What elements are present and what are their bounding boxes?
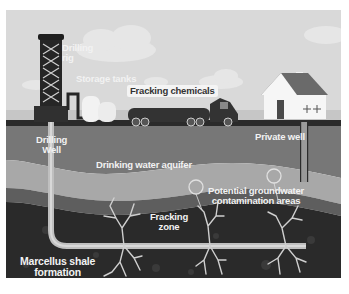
label-drilling-well: Drilling Well (36, 135, 67, 155)
label-aquifer: Drinking water aquifer (96, 160, 192, 170)
label-fracking-zone: Fracking zone (150, 212, 188, 232)
label-drilling-rig: Drilling rig (62, 43, 93, 63)
label-shale: Marcellus shale formation (20, 256, 95, 278)
label-private-well: Private well (255, 132, 305, 142)
label-contamination: Potential groundwater contamination area… (208, 186, 304, 206)
label-fracking-chemicals: Fracking chemicals (127, 85, 218, 97)
fracking-diagram: Drilling rig Storage tanks Fracking chem… (6, 10, 341, 278)
label-storage-tanks: Storage tanks (76, 74, 136, 84)
